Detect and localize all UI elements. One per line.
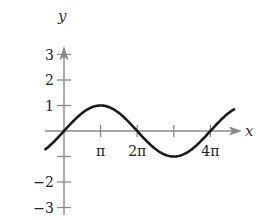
y-tick-label: 3 [45,47,54,63]
y-tick-label: −2 [33,174,54,190]
x-tick-label: π [96,143,105,159]
sine-graph: π2π4π 321−2−3 x y [0,0,261,220]
y-axis-label: y [57,7,67,25]
y-tick-label: 1 [45,98,54,114]
x-axis-label: x [245,122,254,140]
x-tick-label: 2π [128,143,146,159]
y-tick-label: −3 [33,200,54,216]
y-tick-label: 2 [45,72,54,88]
x-tick-label: 4π [201,143,219,159]
